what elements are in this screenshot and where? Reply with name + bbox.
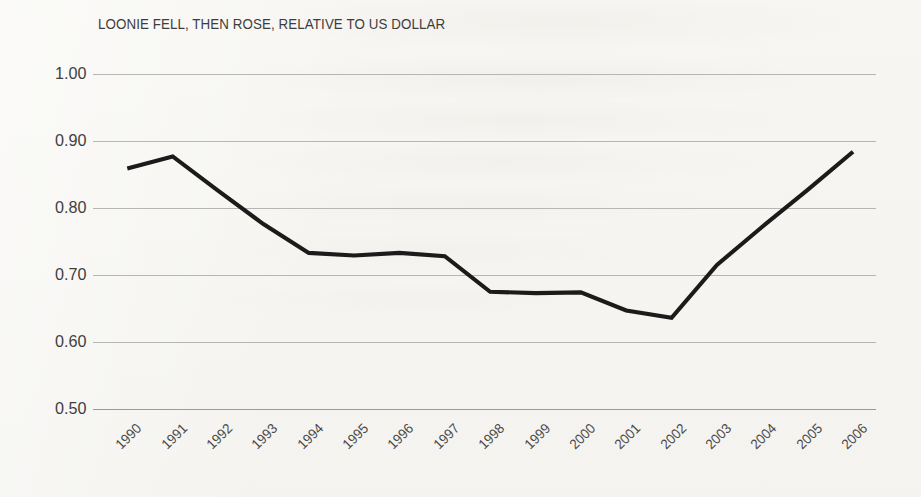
x-tick-label-1999: 1999: [511, 420, 553, 462]
x-tick-label-1992: 1992: [193, 420, 235, 462]
x-tick-label-1993: 1993: [238, 420, 280, 462]
x-tick-label-1998: 1998: [465, 420, 507, 462]
x-tick-label-2006: 2006: [828, 420, 870, 462]
x-tick-label-2001: 2001: [601, 420, 643, 462]
x-tick-label-2002: 2002: [647, 420, 689, 462]
x-axis-tick-labels: 1990199119921993199419951996199719981999…: [0, 0, 921, 497]
x-tick-label-2005: 2005: [783, 420, 825, 462]
x-tick-label-1997: 1997: [420, 420, 462, 462]
x-tick-label-2003: 2003: [692, 420, 734, 462]
x-tick-label-1995: 1995: [329, 420, 371, 462]
x-tick-label-1994: 1994: [284, 420, 326, 462]
x-tick-label-1996: 1996: [375, 420, 417, 462]
x-tick-label-2000: 2000: [556, 420, 598, 462]
x-tick-label-1990: 1990: [102, 420, 144, 462]
x-tick-label-2004: 2004: [737, 420, 779, 462]
x-tick-label-1991: 1991: [148, 420, 190, 462]
line-chart: LOONIE FELL, THEN ROSE, RELATIVE TO US D…: [0, 0, 921, 497]
